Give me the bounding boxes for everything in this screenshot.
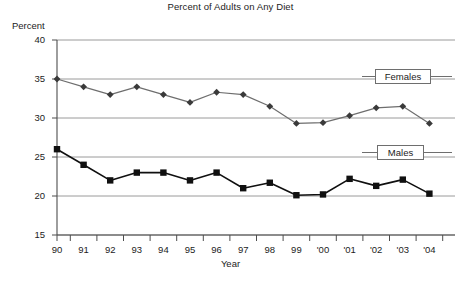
- plot-area: [0, 0, 461, 282]
- data-point-marker: [134, 169, 140, 175]
- data-point-marker: [107, 177, 113, 183]
- data-point-marker: [320, 191, 326, 197]
- data-point-marker: [266, 103, 273, 110]
- data-point-marker: [187, 177, 193, 183]
- data-point-marker: [373, 183, 379, 189]
- data-point-marker: [54, 146, 60, 152]
- data-point-marker: [80, 162, 86, 168]
- chart-container: Percent of Adults on Any Diet Percent Ye…: [0, 0, 461, 282]
- data-point-marker: [293, 192, 299, 198]
- data-point-marker: [160, 169, 166, 175]
- series-line: [57, 79, 429, 123]
- data-point-marker: [346, 176, 352, 182]
- data-point-marker: [399, 103, 406, 110]
- data-point-marker: [107, 91, 114, 98]
- legend-label-females: Females: [375, 69, 431, 84]
- legend-leader-lines: [362, 77, 452, 153]
- data-point-marker: [426, 190, 432, 196]
- data-point-marker: [213, 169, 219, 175]
- data-point-marker: [373, 104, 380, 111]
- data-point-marker: [240, 185, 246, 191]
- x-axis-ticks: [57, 235, 443, 241]
- y-axis-ticks: [52, 40, 57, 235]
- data-point-marker: [240, 91, 247, 98]
- series-males: [54, 146, 433, 198]
- data-point-marker: [400, 176, 406, 182]
- data-point-marker: [267, 180, 273, 186]
- data-point-marker: [426, 120, 433, 127]
- data-point-marker: [133, 83, 140, 90]
- data-point-marker: [320, 119, 327, 126]
- data-point-marker: [187, 99, 194, 106]
- data-point-marker: [213, 89, 220, 96]
- data-point-marker: [160, 91, 167, 98]
- legend-label-males: Males: [377, 145, 424, 160]
- data-point-marker: [80, 83, 87, 90]
- data-point-marker: [293, 120, 300, 127]
- data-point-marker: [54, 76, 61, 83]
- data-series-layer: [54, 76, 433, 199]
